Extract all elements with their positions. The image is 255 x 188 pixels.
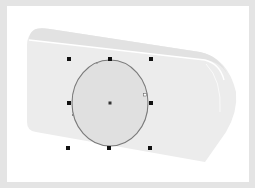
path-node-marker[interactable] bbox=[72, 114, 74, 116]
path-node-marker[interactable] bbox=[144, 94, 147, 97]
handle-top-left[interactable] bbox=[67, 57, 71, 61]
artwork[interactable] bbox=[0, 0, 255, 188]
center-point-icon[interactable] bbox=[109, 102, 112, 105]
handle-middle-right[interactable] bbox=[149, 101, 153, 105]
handle-top-center[interactable] bbox=[108, 57, 112, 61]
handle-bottom-left[interactable] bbox=[66, 146, 70, 150]
handle-bottom-right[interactable] bbox=[148, 146, 152, 150]
handle-middle-left[interactable] bbox=[67, 101, 71, 105]
path-node-marker[interactable] bbox=[96, 62, 98, 64]
handle-top-right[interactable] bbox=[149, 57, 153, 61]
handle-bottom-center[interactable] bbox=[107, 146, 111, 150]
